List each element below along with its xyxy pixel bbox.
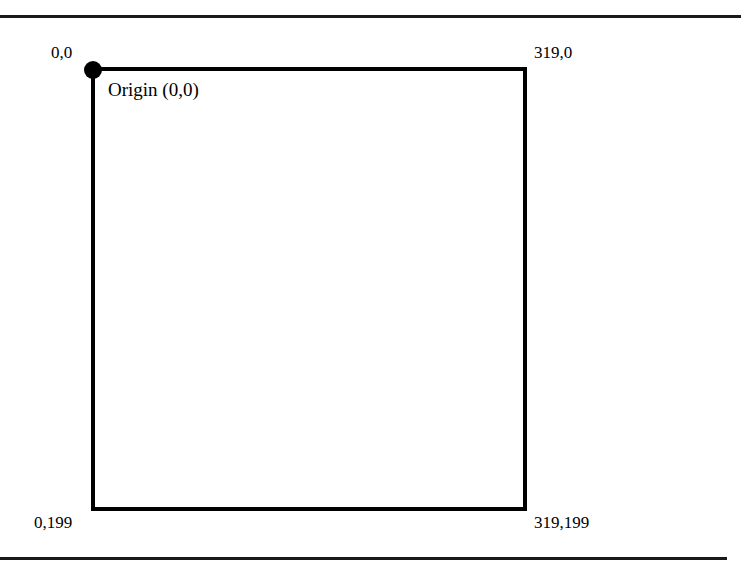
screen-area-rectangle [91, 67, 527, 511]
origin-caption: Origin (0,0) [108, 79, 199, 101]
origin-dot [84, 61, 102, 79]
corner-label-top-left: 0,0 [51, 43, 72, 62]
horizontal-rule-bottom [0, 557, 727, 560]
corner-label-bottom-left: 0,199 [34, 513, 72, 532]
corner-label-bottom-right: 319,199 [534, 513, 589, 532]
horizontal-rule-top [0, 15, 741, 18]
figure-page: 0,0 319,0 Origin (0,0) 0,199 319,199 [0, 0, 752, 576]
corner-label-top-right: 319,0 [534, 43, 572, 62]
